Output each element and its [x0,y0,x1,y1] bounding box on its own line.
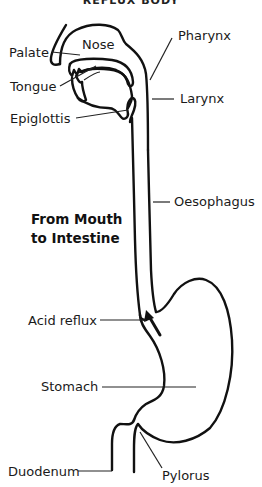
leader-lines [52,38,196,471]
stomach-outline [112,279,232,472]
label-tongue: Tongue [9,79,56,94]
label-oesophagus: Oesophagus [174,194,255,209]
label-larynx: Larynx [180,91,224,106]
label-stomach: Stomach [41,379,98,394]
label-epiglottis: Epiglottis [10,111,71,126]
label-pylorus: Pylorus [162,468,210,483]
header-text: REFLUX BODY [83,0,179,7]
label-pharynx: Pharynx [178,28,231,43]
label-acid-reflux: Acid reflux [28,313,97,328]
digestive-tract-diagram: REFLUX BODY [0,0,262,487]
label-palate: Palate [9,45,49,60]
head-outline [51,25,156,315]
label-duodenum: Duodenum [8,464,80,479]
label-nose: Nose [82,37,114,52]
title-line-2: to Intestine [31,230,120,246]
title-line-1: From Mouth [31,211,122,227]
